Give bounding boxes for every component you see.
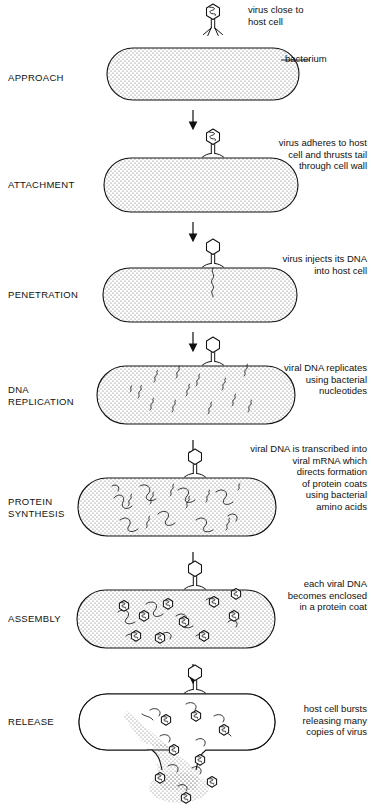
annotation-attachment: virus adheres to host cell and thrusts t…: [217, 137, 367, 172]
annotation-dna-replication: viral DNA replicates using bacterial nuc…: [227, 362, 367, 397]
stage-label-dna-replication: DNA REPLICATION: [8, 384, 74, 407]
annotation-release: host cell bursts releasing many copies o…: [237, 703, 367, 738]
stage-label-release: RELEASE: [8, 716, 54, 728]
stage-label-protein-synthesis: PROTEIN SYNTHESIS: [8, 496, 65, 519]
annotation-assembly: each viral DNA becomes enclosed in a pro…: [237, 578, 367, 613]
stage-label-approach: APPROACH: [8, 72, 64, 84]
stage-label-attachment: ATTACHMENT: [8, 179, 75, 191]
annotation-protein-synthesis: viral DNA is transcribed into viral mRNA…: [189, 443, 367, 513]
phage-replication-diagram: APPROACH ATTACHMENT PENETRATION DNA REPL…: [0, 0, 371, 809]
stage-art-dna-replication: [97, 337, 295, 459]
stage-label-penetration: PENETRATION: [8, 289, 78, 301]
annotation-penetration: virus injects its DNA into host cell: [217, 253, 367, 276]
stage-label-assembly: ASSEMBLY: [8, 613, 61, 625]
bacterium-label: bacterium: [285, 53, 327, 65]
annotation-approach: virus close to host cell: [248, 4, 303, 27]
